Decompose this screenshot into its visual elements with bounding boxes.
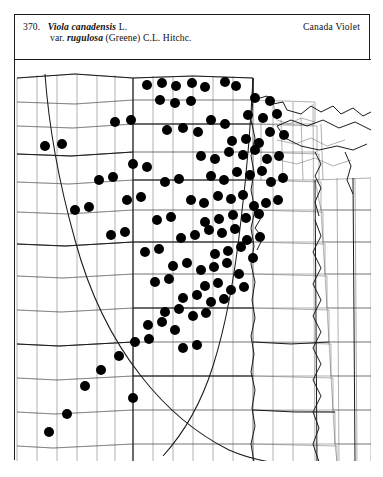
- occurrence-dot: [40, 141, 50, 151]
- occurrence-dot: [171, 81, 181, 91]
- occurrence-dot: [265, 127, 275, 137]
- occurrence-dot: [136, 192, 146, 202]
- occurrence-dot: [206, 297, 216, 307]
- occurrence-dot: [178, 293, 188, 303]
- occurrence-dot: [94, 175, 104, 185]
- occurrence-dot: [120, 227, 130, 237]
- occurrence-dot: [210, 154, 220, 164]
- occurrence-dot: [80, 381, 90, 391]
- occurrence-dot: [157, 78, 167, 88]
- occurrence-dot: [220, 77, 230, 87]
- occurrence-dot: [178, 343, 188, 353]
- occurrence-dot: [187, 78, 197, 88]
- occurrence-dot: [273, 195, 283, 205]
- occurrence-dot: [186, 195, 196, 205]
- occurrence-dot: [234, 269, 244, 279]
- occurrence-dot: [128, 159, 138, 169]
- occurrence-dot: [130, 337, 140, 347]
- occurrence-dot: [266, 177, 276, 187]
- occurrence-dot: [250, 93, 260, 103]
- map-canvas: [15, 60, 371, 461]
- occurrence-dot: [227, 136, 237, 146]
- plate-frame: 370. Viola canadensis L. var. rugulosa (…: [14, 14, 370, 460]
- occurrence-dot: [122, 195, 132, 205]
- scientific-name: Viola canadensis: [48, 21, 117, 32]
- occurrence-dot: [262, 154, 272, 164]
- occurrence-dot: [258, 113, 268, 123]
- occurrence-dot: [209, 262, 219, 272]
- occurrence-dot: [176, 233, 186, 243]
- variety-name: rugulosa: [67, 32, 103, 43]
- occurrence-dot: [236, 242, 246, 252]
- occurrence-dot: [170, 98, 180, 108]
- occurrence-dot: [114, 351, 124, 361]
- occurrence-dot: [168, 261, 178, 271]
- occurrence-dot: [196, 265, 206, 275]
- title-block: 370. Viola canadensis L. var. rugulosa (…: [23, 21, 192, 44]
- occurrence-dot: [44, 427, 54, 437]
- occurrence-dot: [70, 205, 80, 215]
- occurrence-dot: [128, 393, 138, 403]
- occurrence-dot: [166, 212, 176, 222]
- occurrence-dot: [226, 194, 236, 204]
- occurrence-dot: [192, 290, 202, 300]
- occurrence-dot: [274, 151, 284, 161]
- occurrence-dot: [250, 145, 260, 155]
- occurrence-dot: [226, 285, 236, 295]
- occurrence-dot: [155, 95, 165, 105]
- occurrence-dot: [255, 232, 265, 242]
- occurrence-dot: [239, 282, 249, 292]
- occurrence-dot: [248, 253, 258, 263]
- occurrence-dot: [96, 365, 106, 375]
- occurrence-dot: [265, 96, 275, 106]
- occurrence-dot: [182, 258, 192, 268]
- occurrence-dot: [57, 139, 67, 149]
- occurrence-dot: [160, 177, 170, 187]
- occurrence-dot: [199, 198, 209, 208]
- occurrence-dot: [204, 225, 214, 235]
- occurrence-dot: [192, 340, 202, 350]
- occurrence-dot: [186, 96, 196, 106]
- plate-number: 370.: [23, 21, 40, 32]
- occurrence-dot: [241, 134, 251, 144]
- distribution-map: [15, 59, 371, 461]
- occurrence-dot: [241, 213, 251, 223]
- occurrence-dot: [196, 151, 206, 161]
- occurrence-dot: [219, 175, 229, 185]
- occurrence-dot: [144, 334, 154, 344]
- occurrence-dot: [162, 125, 172, 135]
- occurrence-dot: [150, 277, 160, 287]
- occurrence-dot: [245, 170, 255, 180]
- plate-page: 370. Viola canadensis L. var. rugulosa (…: [0, 0, 383, 477]
- occurrence-dot: [214, 214, 224, 224]
- occurrence-dot: [230, 224, 240, 234]
- occurrence-dot: [140, 247, 150, 257]
- occurrence-dot: [279, 130, 289, 140]
- occurrence-dot: [106, 230, 116, 240]
- occurrence-dot: [206, 115, 216, 125]
- occurrence-dot: [200, 281, 210, 291]
- occurrence-dot: [220, 119, 230, 129]
- occurrence-dot: [157, 317, 167, 327]
- occurrence-dot: [84, 202, 94, 212]
- occurrence-dot: [142, 80, 152, 90]
- occurrence-dot: [261, 198, 271, 208]
- occurrence-dot: [142, 162, 152, 172]
- occurrence-dot: [217, 228, 227, 238]
- occurrence-dot: [232, 167, 242, 177]
- common-name: Canada Violet: [303, 21, 360, 32]
- occurrence-dot: [238, 150, 248, 160]
- plate-header: 370. Viola canadensis L. var. rugulosa (…: [15, 15, 369, 60]
- occurrence-dot: [62, 409, 72, 419]
- occurrence-dot: [164, 274, 174, 284]
- occurrence-dot: [126, 115, 136, 125]
- occurrence-dot: [231, 81, 241, 91]
- occurrence-dot: [190, 230, 200, 240]
- occurrence-dot: [210, 249, 220, 259]
- occurrence-dot: [224, 147, 234, 157]
- occurrence-dot: [219, 294, 229, 304]
- occurrence-dot: [200, 82, 210, 92]
- occurrence-dot: [278, 173, 288, 183]
- occurrence-dot: [206, 171, 216, 181]
- occurrence-dot: [188, 311, 198, 321]
